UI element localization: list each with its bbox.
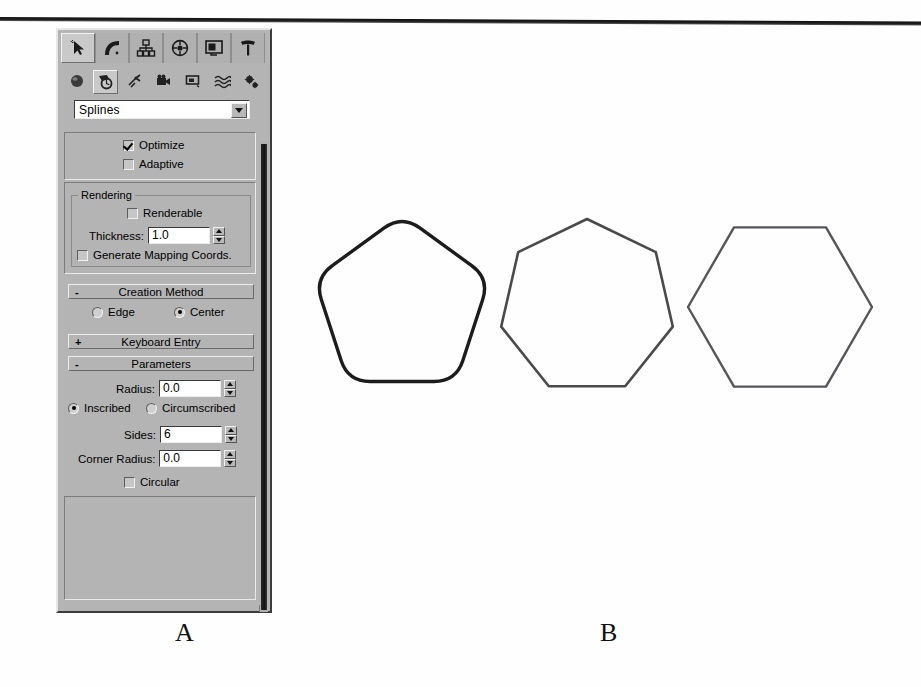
create-tab[interactable]	[61, 33, 95, 63]
waves-icon	[214, 73, 231, 91]
renderable-checkbox[interactable]	[127, 208, 138, 219]
parameters-rollout-header[interactable]: - Parameters	[68, 356, 254, 371]
corner-radius-field[interactable]: 0.0	[159, 450, 221, 467]
inscribed-label: Inscribed	[84, 402, 131, 414]
parameters-header-label: Parameters	[131, 358, 190, 370]
radius-spinner[interactable]	[224, 380, 236, 397]
rounded-pentagon-shape	[319, 221, 484, 381]
category-combo-value: Splines	[75, 103, 120, 117]
space-warps-button[interactable]	[210, 70, 235, 94]
thickness-field[interactable]: 1.0	[148, 227, 210, 244]
helpers-button[interactable]	[181, 70, 206, 94]
circumscribed-label: Circumscribed	[162, 402, 236, 414]
caption-b: B	[600, 618, 617, 648]
thickness-row[interactable]: Thickness: 1.0	[89, 227, 225, 244]
hierarchy-tab[interactable]	[129, 33, 163, 63]
center-radio-row[interactable]: Center	[174, 306, 225, 318]
radius-field[interactable]: 0.0	[159, 380, 221, 397]
adaptive-checkbox-row[interactable]: Adaptive	[123, 158, 184, 170]
display-tab[interactable]	[197, 33, 231, 63]
creation-method-toggle-sign[interactable]: -	[75, 286, 79, 298]
wheel-icon	[170, 38, 190, 58]
creation-method-header-label: Creation Method	[118, 286, 203, 298]
arrow-pointer-icon	[68, 38, 88, 58]
interpolation-rollout-body: Optimize Adaptive	[64, 132, 256, 180]
generate-mapping-coords-checkbox[interactable]	[77, 250, 88, 261]
parameters-rollout-filler	[64, 496, 256, 600]
center-radio[interactable]	[174, 307, 185, 318]
edge-label: Edge	[108, 306, 135, 318]
helper-icon	[185, 73, 201, 91]
thickness-label: Thickness:	[89, 230, 144, 242]
bent-tube-icon	[102, 38, 122, 58]
systems-button[interactable]	[239, 70, 264, 94]
circumscribed-radio-row[interactable]: Circumscribed	[146, 402, 236, 414]
renderable-checkbox-row[interactable]: Renderable	[127, 207, 202, 219]
motion-tab[interactable]	[163, 33, 197, 63]
shapes-button[interactable]	[93, 70, 118, 94]
circular-checkbox-row[interactable]: Circular	[124, 476, 180, 488]
caption-a: A	[175, 618, 194, 648]
sides-row[interactable]: Sides: 6	[124, 426, 237, 443]
corner-radius-row[interactable]: Corner Radius: 0.0	[78, 450, 236, 467]
chevron-down-icon[interactable]	[231, 103, 247, 118]
gears-icon	[243, 73, 260, 92]
creation-method-rollout-header[interactable]: - Creation Method	[68, 284, 254, 299]
generate-mapping-coords-label: Generate Mapping Coords.	[93, 249, 232, 261]
heptagon-shape	[501, 219, 673, 386]
camera-icon	[155, 73, 172, 91]
circular-checkbox[interactable]	[124, 477, 135, 488]
command-panel-tab-row	[61, 33, 267, 63]
cameras-button[interactable]	[151, 70, 176, 94]
hexagon-shape	[688, 227, 872, 386]
sides-spinner[interactable]	[225, 426, 237, 443]
optimize-checkbox[interactable]	[123, 140, 134, 151]
inscribed-radio[interactable]	[68, 403, 79, 414]
edge-radio[interactable]	[92, 307, 103, 318]
circumscribed-radio[interactable]	[146, 403, 157, 414]
sides-field[interactable]: 6	[160, 426, 222, 443]
optimize-checkbox-row[interactable]: Optimize	[123, 139, 184, 151]
rollout-area: Optimize Adaptive Rendering Renderable T…	[62, 128, 260, 605]
category-combo[interactable]: Splines	[74, 100, 250, 119]
monitor-icon	[204, 38, 224, 58]
adaptive-checkbox[interactable]	[123, 159, 134, 170]
circular-label: Circular	[140, 476, 180, 488]
shapes-icon	[97, 73, 114, 92]
keyboard-entry-rollout-header[interactable]: + Keyboard Entry	[68, 334, 254, 349]
renderable-label: Renderable	[143, 207, 202, 219]
rendering-rollout-body: Rendering Renderable Thickness: 1.0 Gene…	[64, 182, 256, 274]
edge-radio-row[interactable]: Edge	[92, 306, 135, 318]
modify-tab[interactable]	[95, 33, 129, 63]
command-panel: Splines Optimize Adaptive Render	[56, 28, 272, 613]
adaptive-label: Adaptive	[139, 158, 184, 170]
radius-label: Radius:	[116, 383, 155, 395]
radius-row[interactable]: Radius: 0.0	[116, 380, 236, 397]
keyboard-entry-toggle-sign[interactable]: +	[75, 336, 81, 348]
hierarchy-tree-icon	[136, 38, 156, 58]
object-type-row	[62, 68, 266, 96]
optimize-label: Optimize	[139, 139, 184, 151]
geometry-button[interactable]	[64, 70, 89, 94]
keyboard-entry-header-label: Keyboard Entry	[121, 336, 200, 348]
inscribed-radio-row[interactable]: Inscribed	[68, 402, 131, 414]
corner-radius-label: Corner Radius:	[78, 453, 155, 465]
mapping-coords-checkbox-row[interactable]: Generate Mapping Coords.	[77, 249, 232, 261]
rendering-group-label: Rendering	[78, 189, 135, 201]
parameters-toggle-sign[interactable]: -	[75, 358, 79, 370]
center-label: Center	[190, 306, 225, 318]
sides-label: Sides:	[124, 429, 156, 441]
corner-radius-spinner[interactable]	[224, 450, 236, 467]
sphere-icon	[69, 73, 85, 91]
utilities-tab[interactable]	[231, 33, 265, 63]
thickness-spinner[interactable]	[213, 227, 225, 244]
light-icon	[127, 73, 143, 91]
shape-illustrations	[290, 200, 890, 420]
lights-button[interactable]	[122, 70, 147, 94]
hammer-icon	[238, 38, 258, 58]
panel-scrollbar-thumb[interactable]	[261, 144, 267, 610]
